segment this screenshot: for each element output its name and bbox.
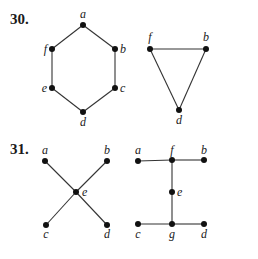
vertex-label-e: e (42, 81, 48, 95)
vertex-b (104, 158, 110, 164)
vertex-a (80, 22, 86, 28)
graphs-layer: abcdeffbdabecdafbecgd (42, 7, 209, 241)
vertex-label-a: a (42, 143, 48, 157)
vertex-label-g: g (169, 227, 175, 241)
vertex-f (169, 157, 175, 163)
vertex-a (42, 158, 48, 164)
vertex-label-b: b (104, 143, 110, 157)
vertex-label-f: f (148, 30, 153, 44)
edge-a-e (45, 161, 76, 192)
edge-e-d (76, 192, 107, 225)
vertex-e (169, 189, 175, 195)
edge-d-f (150, 49, 179, 110)
vertex-a (135, 158, 141, 164)
vertex-label-c: c (120, 81, 126, 95)
edge-e-c (46, 192, 76, 225)
vertex-label-a: a (80, 7, 86, 21)
vertex-label-f: f (44, 42, 49, 56)
vertex-label-d: d (201, 227, 208, 241)
edge-c-d (83, 88, 115, 112)
vertex-label-e: e (82, 185, 88, 199)
edge-a-b (83, 25, 115, 49)
edge-d-e (52, 88, 83, 112)
vertex-e (49, 85, 55, 91)
vertex-f (147, 46, 153, 52)
vertex-label-e: e (177, 185, 183, 199)
vertex-label-b: b (203, 30, 209, 44)
edge-b-e (76, 161, 107, 192)
graph-31-x-shape: abecd (42, 143, 111, 241)
graph-exercises-figure: 30. 31. abcdeffbdabecdafbecgd (0, 0, 258, 259)
vertex-e (73, 189, 79, 195)
vertex-b (203, 46, 209, 52)
vertex-b (112, 46, 118, 52)
vertex-label-d: d (80, 115, 87, 129)
edge-f-a (52, 25, 83, 49)
edge-b-d (179, 49, 206, 110)
graph-30-triangle: fbd (147, 30, 209, 127)
vertex-f (49, 46, 55, 52)
vertex-b (201, 157, 207, 163)
vertex-label-b: b (120, 42, 126, 56)
graph-30-hexagon: abcdef (42, 7, 126, 129)
vertex-label-d: d (104, 227, 111, 241)
vertex-label-d: d (176, 113, 183, 127)
vertex-label-c: c (43, 227, 49, 241)
vertex-label-b: b (201, 143, 207, 157)
vertex-c (112, 85, 118, 91)
problem-number-30: 30. (10, 11, 29, 27)
vertex-label-a: a (135, 143, 141, 157)
vertex-label-f: f (170, 143, 175, 157)
edge-a-f (138, 160, 172, 161)
problem-number-31: 31. (10, 141, 29, 157)
graph-31-i-shape: afbecgd (135, 143, 208, 241)
vertex-label-c: c (135, 227, 141, 241)
